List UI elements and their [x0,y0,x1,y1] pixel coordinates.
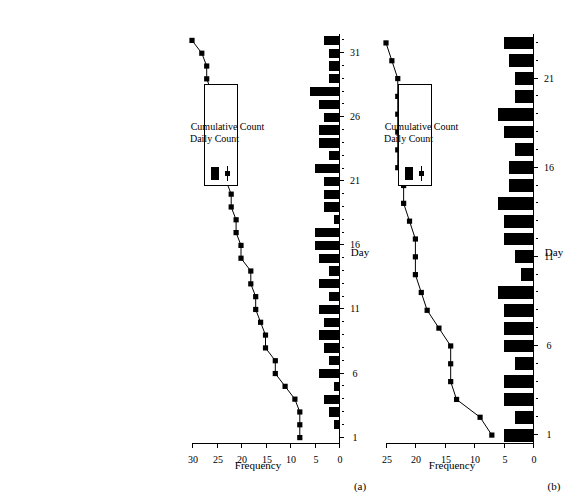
y-tick-label: 5 [495,455,515,465]
chart-b-canvas: 16111621 0510152025 Day Frequency Daily … [380,16,565,486]
cumulative-marker [448,379,453,384]
cumulative-marker [477,415,482,420]
x-minor-tick [536,291,538,292]
y-tick [504,444,505,448]
x-tick-label: 16 [541,163,557,173]
x-tick [534,78,538,79]
y-axis-title-b: Frequency [429,459,475,471]
legend-label-daily-count: Daily Count [384,133,433,144]
x-tick [534,256,538,257]
y-tick [533,444,534,448]
x-minor-tick [536,202,538,203]
legend-row-daily-count: Daily Count [402,89,415,181]
x-minor-tick [536,309,538,310]
y-tick [415,444,416,448]
x-minor-tick [536,238,538,239]
x-tick-label: 1 [541,430,557,440]
chart-panel-b: 16111621 0510152025 Day Frequency Daily … [192,0,385,503]
chart-panel-a: 161116212631 051015202530 Day Frequency … [0,0,192,503]
x-minor-tick [536,42,538,43]
legend-label-cumulative-count: Cumulative Count [385,121,459,132]
line-marker-swatch-icon [416,166,427,181]
cumulative-marker [395,76,400,81]
cumulative-marker [383,40,388,45]
x-minor-tick [536,131,538,132]
y-tick [445,444,446,448]
panel-tag-b: (b) [548,480,561,492]
cumulative-marker [413,236,418,241]
bar-swatch-icon [403,166,414,181]
cumulative-marker [489,432,494,437]
cumulative-marker [436,326,441,331]
cumulative-marker [389,58,394,63]
x-minor-tick [536,149,538,150]
x-tick [534,434,538,435]
cumulative-marker [448,343,453,348]
y-tick-label: 25 [377,455,397,465]
y-tick-label: 20 [406,455,426,465]
cumulative-marker [448,361,453,366]
cumulative-marker [413,254,418,259]
y-tick-label: 0 [524,455,544,465]
x-minor-tick [536,363,538,364]
x-minor-tick [536,185,538,186]
x-tick [534,345,538,346]
x-minor-tick [536,95,538,96]
x-minor-tick [536,398,538,399]
x-minor-tick [536,327,538,328]
x-minor-tick [536,220,538,221]
x-minor-tick [536,274,538,275]
x-tick [534,167,538,168]
cumulative-marker [425,308,430,313]
legend-b: Daily Count Cumulative Count [398,84,432,186]
cumulative-marker [407,219,412,224]
x-minor-tick [536,416,538,417]
x-tick-label: 6 [541,341,557,351]
cumulative-marker [454,397,459,402]
cumulative-marker [413,272,418,277]
y-tick [474,444,475,448]
x-minor-tick [536,381,538,382]
cumulative-marker [401,201,406,206]
x-axis-line-b [533,34,534,444]
cumulative-marker [419,290,424,295]
y-tick [386,444,387,448]
x-axis-title-b: Day [545,246,563,258]
x-minor-tick [536,113,538,114]
x-tick-label: 21 [541,74,557,84]
x-minor-tick [536,60,538,61]
